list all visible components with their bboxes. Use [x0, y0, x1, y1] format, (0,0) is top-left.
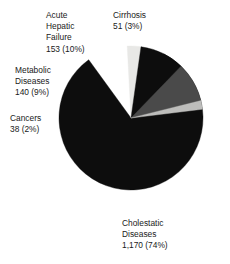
pie-label-cirrhosis-value: 51 (3%) — [113, 21, 146, 32]
pie-label-cholestatic-diseases-line1: Cholestatic — [122, 218, 168, 229]
pie-slices — [59, 46, 203, 190]
pie-label-cirrhosis: Cirrhosis 51 (3%) — [113, 10, 146, 32]
pie-label-cancers-line1: Cancers — [10, 113, 41, 124]
pie-label-acute-hepatic-failure-line1: Acute — [46, 10, 85, 21]
pie-label-acute-hepatic-failure-line3: Failure — [46, 32, 85, 43]
pie-label-cholestatic-diseases: Cholestatic Diseases 1,170 (74%) — [122, 218, 168, 252]
pie-label-acute-hepatic-failure-value: 153 (10%) — [46, 44, 85, 55]
pie-label-metabolic-diseases: Metabolic Diseases 140 (9%) — [15, 65, 51, 99]
pie-label-acute-hepatic-failure-line2: Hepatic — [46, 21, 85, 32]
pie-label-cancers: Cancers 38 (2%) — [10, 113, 41, 135]
pie-label-cholestatic-diseases-line2: Diseases — [122, 229, 168, 240]
pie-label-cholestatic-diseases-value: 1,170 (74%) — [122, 240, 168, 251]
pie-label-metabolic-diseases-line2: Diseases — [15, 76, 51, 87]
pie-label-cancers-value: 38 (2%) — [10, 124, 41, 135]
pie-label-cirrhosis-line1: Cirrhosis — [113, 10, 146, 21]
pie-label-metabolic-diseases-line1: Metabolic — [15, 65, 51, 76]
pie-label-acute-hepatic-failure: Acute Hepatic Failure 153 (10%) — [46, 10, 85, 55]
pie-label-metabolic-diseases-value: 140 (9%) — [15, 87, 51, 98]
pie-chart-figure: Acute Hepatic Failure 153 (10%) Cirrhosi… — [0, 0, 230, 264]
